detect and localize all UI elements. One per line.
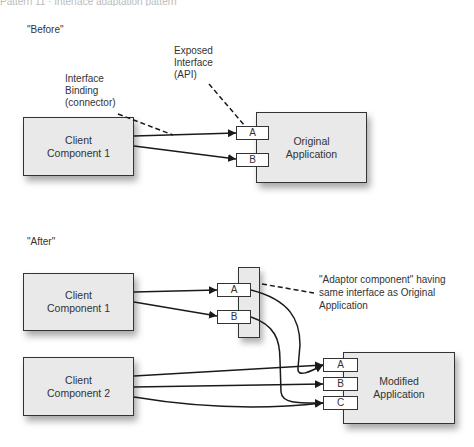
original-port-b: B bbox=[236, 153, 269, 167]
original-port-a: A bbox=[236, 126, 269, 140]
modified-port-b: B bbox=[323, 377, 358, 391]
client2-arrow-b bbox=[134, 384, 323, 387]
interface-binding-leader bbox=[118, 114, 173, 135]
client1-adaptor-arrow-b bbox=[134, 302, 217, 316]
adaptor-b-to-modified-c bbox=[251, 317, 323, 403]
adaptor-port-b: B bbox=[217, 310, 251, 324]
modified-port-c: C bbox=[323, 396, 358, 410]
client1-adaptor-arrow-a bbox=[134, 290, 217, 292]
adaptor-a-to-modified-a bbox=[251, 290, 323, 373]
exposed-interface-leader bbox=[209, 84, 245, 126]
adaptor-leader bbox=[262, 284, 314, 293]
client2-arrow-a bbox=[134, 365, 323, 376]
adaptor-port-a: A bbox=[217, 283, 251, 297]
modified-port-a: A bbox=[323, 358, 358, 372]
binding-arrow-b bbox=[134, 146, 236, 159]
connector-lines bbox=[0, 0, 474, 447]
binding-arrow-a bbox=[134, 133, 236, 136]
